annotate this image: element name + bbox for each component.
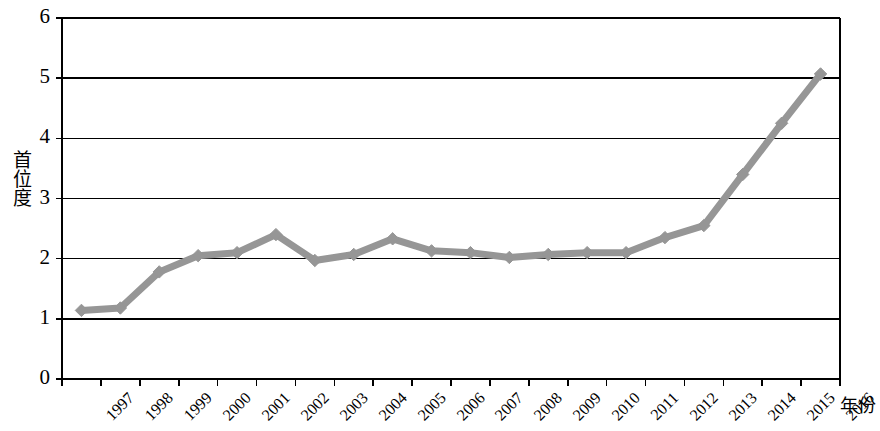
data-series-line — [81, 74, 820, 310]
data-point-marker — [581, 246, 593, 258]
series-line-首位度 — [81, 74, 820, 310]
gridlines — [62, 18, 840, 319]
data-point-marker — [464, 246, 476, 258]
plot-area — [0, 0, 880, 431]
data-point-marker — [503, 251, 515, 263]
x-axis-ticks — [62, 379, 840, 386]
data-point-marker — [75, 304, 87, 316]
chart-container: 首位度 6543210 1997199819992000200120022003… — [0, 0, 880, 431]
data-point-markers — [75, 68, 827, 317]
